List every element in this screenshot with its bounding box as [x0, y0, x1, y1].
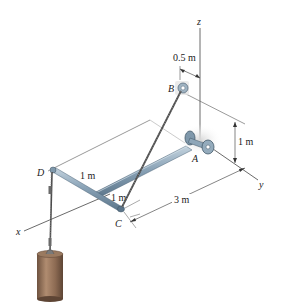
- y-axis-label: y: [258, 179, 264, 190]
- cable-BC: [122, 91, 181, 207]
- z-axis: z: [196, 16, 201, 140]
- dimension-0-5m-label: 0.5 m: [173, 52, 196, 63]
- point-D-label: D: [36, 167, 45, 178]
- dimension-1m-height-label: 1 m: [238, 136, 254, 147]
- statics-diagram: z y x 0.5 m B 1 m: [0, 0, 281, 304]
- support-B: B: [168, 81, 245, 124]
- x-axis-label: x: [15, 226, 21, 237]
- point-C-label: C: [115, 218, 122, 229]
- hanging-weight: [37, 250, 63, 302]
- dimension-DC-upper-label: 1 m: [80, 170, 96, 181]
- dimension-3m: 3 m: [124, 168, 245, 228]
- dimension-1m-height: 1 m: [233, 122, 254, 163]
- x-axis: x: [15, 194, 110, 237]
- point-B-label: B: [168, 83, 174, 94]
- rod-shaft: [92, 146, 192, 198]
- z-axis-label: z: [196, 16, 201, 27]
- point-A-label: A: [191, 153, 199, 164]
- cable-D-weight: [49, 172, 53, 252]
- dimension-3m-label: 3 m: [174, 194, 190, 205]
- dimension-0-5m: 0.5 m: [173, 52, 200, 80]
